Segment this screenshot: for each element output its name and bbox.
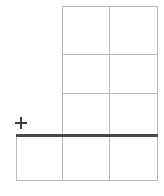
thick-separator-rule	[16, 134, 158, 137]
lower-row-bottom-border	[16, 180, 158, 181]
table-cell[interactable]	[63, 138, 109, 180]
table-cell[interactable]	[63, 55, 109, 93]
table-cell[interactable]	[17, 138, 62, 180]
table-cell[interactable]	[63, 7, 109, 54]
table-cell[interactable]	[110, 7, 157, 54]
plus-marker-icon[interactable]	[15, 117, 27, 129]
upper-grid-right-border	[157, 6, 158, 135]
plus-vertical-bar	[20, 117, 22, 129]
diagram-canvas	[0, 0, 164, 196]
table-cell[interactable]	[110, 138, 157, 180]
table-cell[interactable]	[110, 94, 157, 134]
table-cell[interactable]	[110, 55, 157, 93]
table-cell[interactable]	[63, 94, 109, 134]
lower-row-right-border	[157, 135, 158, 180]
